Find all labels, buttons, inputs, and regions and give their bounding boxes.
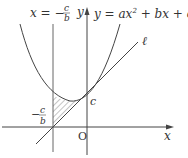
x-axis [2, 125, 174, 130]
label-c-intercept: c [90, 95, 96, 108]
label-x-eq: x = − [30, 6, 65, 20]
label-neg-c-over-b-den: b [40, 116, 46, 126]
diagram-canvas: x = − c b y y = ax2 + bx + c ℓ c − c b O… [0, 0, 188, 158]
parabola-curve [20, 24, 120, 101]
label-curve-equation: y = ax2 + bx + c [93, 7, 188, 21]
label-neg-c-over-b-num: c [40, 105, 45, 115]
label-x-eq-num: c [64, 3, 69, 13]
label-y-axis: y [76, 5, 84, 19]
label-origin: O [78, 130, 87, 143]
y-axis-arrow-icon [85, 7, 90, 15]
label-neg-c-over-b-minus: − [31, 108, 40, 121]
label-x-axis: x [164, 129, 171, 143]
label-tangent-l: ℓ [142, 34, 147, 48]
label-x-eq-den: b [64, 13, 70, 23]
